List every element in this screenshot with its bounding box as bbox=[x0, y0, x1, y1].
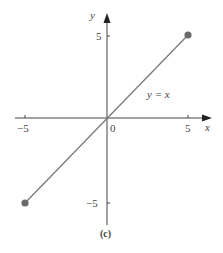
y-tick-label-5: 5 bbox=[96, 30, 102, 42]
origin-label: 0 bbox=[110, 122, 116, 134]
axes bbox=[15, 13, 212, 225]
x-tick-label-5: 5 bbox=[185, 122, 191, 134]
endpoint-dot-5-5 bbox=[184, 31, 191, 38]
y-axis-label: y bbox=[89, 9, 95, 21]
y-axis-arrow-icon bbox=[104, 13, 111, 23]
y-tick-label-neg5: −5 bbox=[86, 197, 98, 209]
chart: y x 5 −5 −5 5 0 y = x (c) bbox=[0, 0, 223, 253]
figure-caption: (c) bbox=[100, 228, 111, 240]
endpoint-dot-neg5-neg5 bbox=[21, 199, 28, 206]
x-axis-label: x bbox=[204, 121, 210, 133]
x-tick-label-neg5: −5 bbox=[17, 122, 29, 134]
series-annotation: y = x bbox=[146, 88, 170, 100]
